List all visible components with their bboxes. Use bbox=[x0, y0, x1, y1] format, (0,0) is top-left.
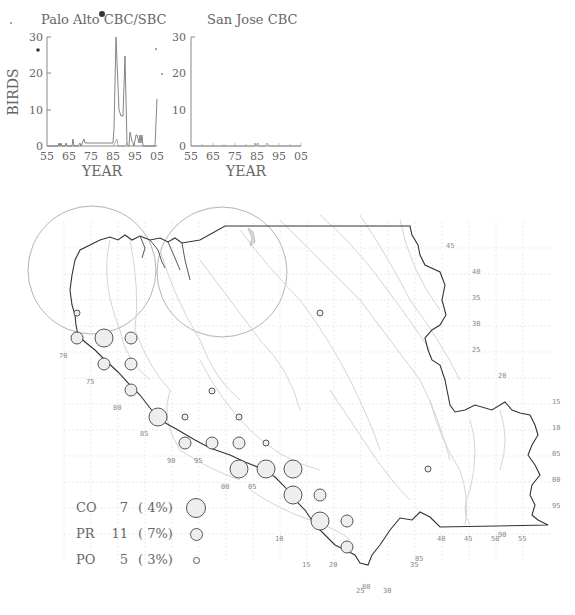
palo-alto-ytick-10: 10 bbox=[29, 104, 43, 117]
west-label: 95 bbox=[194, 457, 202, 465]
legend-percent: ( 7%) bbox=[138, 526, 173, 541]
east-label: 05 bbox=[552, 450, 560, 458]
san-jose-ytick-30: 30 bbox=[172, 31, 186, 44]
palo-alto-ytick-20: 20 bbox=[29, 67, 43, 80]
palo-alto-xtick-75: 75 bbox=[84, 150, 98, 163]
san-jose-chart: 30 20 10 0 55 65 75 85 95 05 YEAR bbox=[172, 31, 308, 179]
marker-pr bbox=[125, 358, 137, 370]
palo-alto-ylabel: BIRDS bbox=[5, 68, 21, 115]
marker-pr bbox=[314, 489, 326, 501]
marker-co bbox=[257, 460, 275, 478]
marker-co bbox=[284, 486, 302, 504]
marker-co bbox=[311, 512, 329, 530]
marker-pr bbox=[341, 541, 353, 553]
east-label: 45 bbox=[446, 242, 454, 250]
marker-po bbox=[209, 388, 215, 394]
medium-circle-icon bbox=[190, 528, 203, 541]
east-label: 25 bbox=[472, 346, 480, 354]
marker-po bbox=[182, 414, 188, 420]
east-label: 40 bbox=[472, 268, 480, 276]
east-label: 00 bbox=[552, 476, 560, 484]
palo-alto-ytick-30: 30 bbox=[29, 31, 43, 44]
marker-po bbox=[74, 310, 80, 316]
east-label: 35 bbox=[472, 294, 480, 302]
east-label: 30 bbox=[472, 320, 480, 328]
south-label: 90 bbox=[498, 531, 506, 539]
palo-alto-xtick-55: 55 bbox=[40, 150, 54, 163]
east-label: 95 bbox=[552, 502, 560, 510]
marker-pr bbox=[179, 437, 191, 449]
palo-alto-xlabel: YEAR bbox=[81, 163, 123, 179]
west-label: 00 bbox=[221, 483, 229, 491]
palo-alto-xtick-95: 95 bbox=[128, 150, 142, 163]
south-label: 30 bbox=[383, 587, 391, 595]
san-jose-xtick-05: 05 bbox=[294, 150, 308, 163]
palo-alto-xtick-05: 05 bbox=[150, 150, 164, 163]
small-circle-icon bbox=[193, 557, 200, 564]
map-west-labels: 70 75 80 85 90 95 00 05 bbox=[59, 352, 256, 491]
west-label: 85 bbox=[140, 430, 148, 438]
south-label: 45 bbox=[464, 535, 472, 543]
marker-po bbox=[317, 310, 323, 316]
east-label: 20 bbox=[498, 372, 506, 380]
marker-pr bbox=[233, 437, 245, 449]
legend-code: PR bbox=[76, 526, 95, 541]
south-label: 20 bbox=[329, 561, 337, 569]
reservoir bbox=[248, 228, 255, 246]
palo-alto-xtick-65: 65 bbox=[62, 150, 76, 163]
time-series-charts: 30 20 10 0 55 65 75 85 95 05 YEAR BIRDS … bbox=[0, 0, 575, 190]
san-jose-xtick-95: 95 bbox=[272, 150, 286, 163]
south-label: 55 bbox=[518, 535, 526, 543]
map-south-labels: 10 15 20 25 30 35 40 45 50 55 80 85 90 bbox=[275, 531, 526, 595]
east-label: 15 bbox=[552, 398, 560, 406]
south-label: 35 bbox=[410, 561, 418, 569]
south-label: 85 bbox=[415, 555, 423, 563]
marker-po bbox=[263, 440, 269, 446]
marker-po bbox=[425, 466, 431, 472]
west-label: 80 bbox=[113, 404, 121, 412]
west-label: 70 bbox=[59, 352, 67, 360]
south-label: 40 bbox=[437, 535, 445, 543]
marker-co bbox=[284, 460, 302, 478]
san-jose-ytick-10: 10 bbox=[172, 104, 186, 117]
south-label: 80 bbox=[362, 583, 370, 591]
large-circle-icon bbox=[186, 498, 206, 518]
san-jose-ytick-20: 20 bbox=[172, 67, 186, 80]
palo-alto-count-circle bbox=[28, 206, 156, 334]
legend-row-probable: PR 11 ( 7%) bbox=[76, 526, 236, 550]
south-label: 25 bbox=[356, 587, 364, 595]
west-label: 75 bbox=[86, 378, 94, 386]
south-label: 50 bbox=[491, 535, 499, 543]
legend-count: 11 bbox=[110, 526, 128, 541]
marker-pr bbox=[206, 437, 218, 449]
san-jose-count-circle bbox=[157, 207, 287, 337]
palo-alto-xtick-85: 85 bbox=[106, 150, 120, 163]
marker-po bbox=[236, 414, 242, 420]
marker-co bbox=[95, 329, 113, 347]
marker-co bbox=[149, 408, 167, 426]
map-rivers bbox=[107, 215, 505, 540]
marker-co bbox=[230, 460, 248, 478]
south-label: 15 bbox=[302, 561, 310, 569]
marker-pr bbox=[71, 332, 83, 344]
map-east-labels: 45 40 35 30 25 20 15 10 05 00 95 bbox=[446, 242, 560, 510]
legend-row-confirmed: CO 7 ( 4%) bbox=[76, 500, 236, 524]
palo-alto-chart: 30 20 10 0 55 65 75 85 95 05 YEAR BIRDS bbox=[5, 31, 164, 179]
san-jose-xlabel: YEAR bbox=[225, 163, 267, 179]
san-jose-xtick-85: 85 bbox=[250, 150, 264, 163]
legend-code: PO bbox=[76, 552, 95, 567]
marker-pr bbox=[125, 384, 137, 396]
palo-alto-sbc-line bbox=[113, 139, 128, 146]
legend-row-possible: PO 5 ( 3%) bbox=[76, 552, 236, 576]
legend-percent: ( 4%) bbox=[138, 500, 173, 515]
west-label: 05 bbox=[248, 483, 256, 491]
south-label: 10 bbox=[275, 535, 283, 543]
east-label: 10 bbox=[552, 424, 560, 432]
marker-pr bbox=[98, 358, 110, 370]
san-jose-xtick-75: 75 bbox=[228, 150, 242, 163]
san-jose-xtick-65: 65 bbox=[206, 150, 220, 163]
palo-alto-cbc-line bbox=[47, 37, 157, 146]
marker-pr bbox=[125, 332, 137, 344]
legend-code: CO bbox=[76, 500, 97, 515]
legend-percent: ( 3%) bbox=[138, 552, 173, 567]
